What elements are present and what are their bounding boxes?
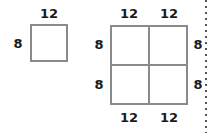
dotted-divider-rule — [205, 0, 207, 133]
small-square-shape — [30, 24, 68, 62]
small-square-left-label: 8 — [11, 37, 25, 50]
large-square-left-top-label: 8 — [92, 38, 106, 51]
large-square-left-bottom-label: 8 — [92, 78, 106, 91]
large-square-bottom-right-label: 12 — [150, 111, 188, 124]
large-square-top-left-label: 12 — [110, 7, 148, 20]
diagram-canvas: 12 8 12 12 12 12 8 8 8 8 — [0, 0, 211, 133]
large-square-right-bottom-label: 8 — [191, 78, 205, 91]
small-square-top-label: 12 — [30, 7, 68, 20]
large-square-bottom-left-label: 12 — [110, 111, 148, 124]
large-square-horizontal-divider — [110, 64, 188, 66]
large-square-top-right-label: 12 — [150, 7, 188, 20]
large-square-right-top-label: 8 — [191, 38, 205, 51]
